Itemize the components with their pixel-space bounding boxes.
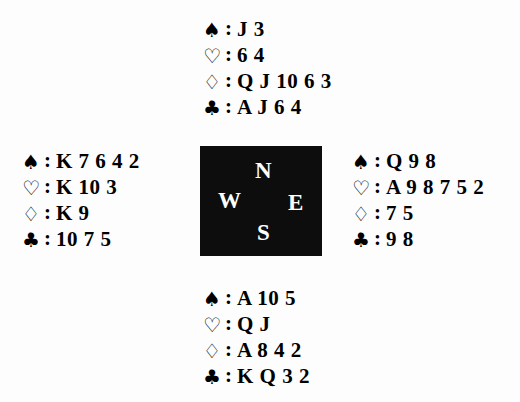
spade-icon: ♠ [203,286,225,312]
compass-north-label: N [255,159,272,182]
suit-separator: : [374,199,386,225]
hand-west-diamonds: K 9 [56,200,90,226]
spade-icon: ♠ [203,17,225,43]
hand-north-hearts: 6 4 [237,42,265,68]
suit-separator: : [374,225,386,251]
diamond-icon: ♢ [203,69,225,95]
compass-south-label: S [257,221,270,244]
suit-separator: : [225,93,237,119]
hand-north-clubs-line: ♣ : A J 6 4 [203,94,332,120]
compass-east-label: E [288,191,303,214]
hand-north-diamonds-line: ♢ : Q J 10 6 3 [203,68,332,94]
hand-west-hearts-line: ♡ : K 10 3 [22,174,140,200]
club-icon: ♣ [22,227,44,253]
hand-east-diamonds-line: ♢ : 7 5 [352,200,484,226]
hand-east-clubs-line: ♣ : 9 8 [352,226,484,252]
hand-south-spades-line: ♠ : A 10 5 [203,285,310,311]
diamond-icon: ♢ [22,201,44,227]
hand-south-clubs-line: ♣ : K Q 3 2 [203,363,310,389]
hand-east-diamonds: 7 5 [386,200,414,226]
hand-west: ♠ : K 7 6 4 2 ♡ : K 10 3 ♢ : K 9 ♣ : 10 … [22,148,140,252]
hand-east-spades-line: ♠ : Q 9 8 [352,148,484,174]
heart-icon: ♡ [203,312,225,338]
hand-south-hearts: Q J [237,311,271,337]
suit-separator: : [225,284,237,310]
hand-south-hearts-line: ♡ : Q J [203,311,310,337]
hand-west-hearts: K 10 3 [56,174,117,200]
hand-east: ♠ : Q 9 8 ♡ : A 9 8 7 5 2 ♢ : 7 5 ♣ : 9 … [352,148,484,252]
suit-separator: : [44,173,56,199]
suit-separator: : [225,310,237,336]
hand-west-diamonds-line: ♢ : K 9 [22,200,140,226]
heart-icon: ♡ [22,175,44,201]
hand-north-spades: J 3 [237,16,265,42]
hand-north: ♠ : J 3 ♡ : 6 4 ♢ : Q J 10 6 3 ♣ : A J 6… [203,16,332,120]
diamond-icon: ♢ [352,201,374,227]
hand-south-clubs: K Q 3 2 [237,363,310,389]
hand-west-clubs-line: ♣ : 10 7 5 [22,226,140,252]
suit-separator: : [225,15,237,41]
spade-icon: ♠ [22,149,44,175]
hand-west-spades: K 7 6 4 2 [56,148,140,174]
club-icon: ♣ [203,95,225,121]
suit-separator: : [44,147,56,173]
hand-south-diamonds: A 8 4 2 [237,337,302,363]
suit-separator: : [374,147,386,173]
club-icon: ♣ [352,227,374,253]
hand-north-spades-line: ♠ : J 3 [203,16,332,42]
bridge-hand-diagram: ♠ : J 3 ♡ : 6 4 ♢ : Q J 10 6 3 ♣ : A J 6… [0,0,520,402]
hand-north-clubs: A J 6 4 [237,94,302,120]
hand-south: ♠ : A 10 5 ♡ : Q J ♢ : A 8 4 2 ♣ : K Q 3… [203,285,310,389]
club-icon: ♣ [203,364,225,390]
hand-south-diamonds-line: ♢ : A 8 4 2 [203,337,310,363]
suit-separator: : [44,199,56,225]
suit-separator: : [225,67,237,93]
spade-icon: ♠ [352,149,374,175]
suit-separator: : [225,336,237,362]
suit-separator: : [44,225,56,251]
compass-west-label: W [218,189,241,212]
hand-west-spades-line: ♠ : K 7 6 4 2 [22,148,140,174]
hand-north-hearts-line: ♡ : 6 4 [203,42,332,68]
hand-east-hearts: A 9 8 7 5 2 [386,174,484,200]
heart-icon: ♡ [203,43,225,69]
hand-west-clubs: 10 7 5 [56,226,112,252]
suit-separator: : [225,41,237,67]
hand-east-hearts-line: ♡ : A 9 8 7 5 2 [352,174,484,200]
heart-icon: ♡ [352,175,374,201]
diamond-icon: ♢ [203,338,225,364]
hand-north-diamonds: Q J 10 6 3 [237,68,332,94]
hand-east-clubs: 9 8 [386,226,414,252]
suit-separator: : [225,362,237,388]
suit-separator: : [374,173,386,199]
compass-box: N W E S [200,146,322,256]
hand-south-spades: A 10 5 [237,285,296,311]
hand-east-spades: Q 9 8 [386,148,436,174]
